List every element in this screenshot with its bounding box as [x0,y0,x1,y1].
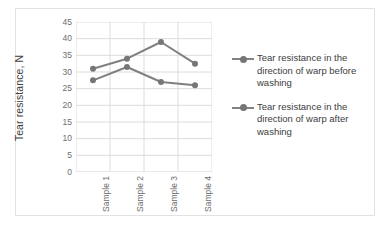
legend-marker-icon [232,102,254,114]
chart-svg [76,22,212,172]
x-axis-tick-label: Sample 2 [133,176,147,232]
plot-area [76,22,212,172]
data-point-marker[interactable] [124,64,130,70]
x-axis-tick-label: Sample 4 [201,176,215,232]
y-axis-title-label: Tear resistance, N [13,55,25,141]
y-axis-tick-label: 25 [54,84,72,93]
y-axis-tick-label: 5 [54,151,72,160]
y-axis-tick-labels: 454035302520151050 [52,22,72,172]
legend-entry-label: Tear resistance in the direction of warp… [257,52,362,90]
data-point-marker[interactable] [158,39,164,45]
y-axis-tick-label: 30 [54,68,72,77]
data-point-marker[interactable] [90,66,96,72]
y-axis-tick-label: 20 [54,101,72,110]
chart-legend: Tear resistance in the direction of warp… [232,52,362,149]
y-axis-tick-label: 15 [54,118,72,127]
y-axis-tick-label: 10 [54,134,72,143]
legend-entry-label: Tear resistance in the direction of warp… [257,101,362,139]
y-axis-tick-label: 45 [54,18,72,27]
x-axis-tick-label: Sample 1 [99,176,113,232]
x-axis-tick-label: Sample 3 [167,176,181,232]
x-axis-tick-labels: Sample 1Sample 2Sample 3Sample 4 [76,176,212,232]
data-point-marker[interactable] [90,77,96,83]
legend-entry[interactable]: Tear resistance in the direction of warp… [232,101,362,139]
y-axis-title: Tear resistance, N [8,18,30,178]
y-axis-tick-label: 0 [54,168,72,177]
vertical-gridlines [76,22,212,172]
legend-entry[interactable]: Tear resistance in the direction of warp… [232,52,362,90]
data-point-marker[interactable] [124,56,130,62]
legend-marker-icon [232,53,254,65]
data-point-marker[interactable] [192,82,198,88]
y-axis-tick-label: 35 [54,51,72,60]
y-axis-tick-label: 40 [54,34,72,43]
data-point-marker[interactable] [158,79,164,85]
data-point-marker[interactable] [192,61,198,67]
